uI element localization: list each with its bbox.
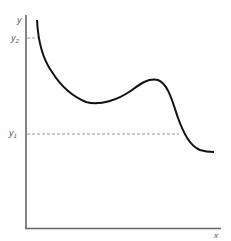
y-axis-label: y: [16, 15, 22, 25]
function-curve: [37, 20, 214, 152]
y2-label: y2: [10, 33, 20, 44]
y1-label: y1: [8, 128, 17, 139]
function-graph: y x y2 y1: [0, 0, 231, 241]
x-axis-label: x: [213, 231, 219, 240]
